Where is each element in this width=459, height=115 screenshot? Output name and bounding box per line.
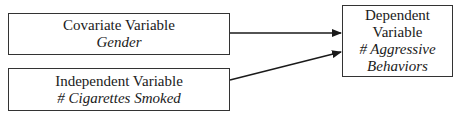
dependent-role-label-line1: Dependent [365,7,430,24]
covariate-variable-name: Gender [97,34,142,51]
dependent-variable-name-line1: # Aggressive [359,41,435,58]
dependent-variable-name-line2: Behaviors [367,58,428,75]
covariate-variable-box: Covariate Variable Gender [8,13,230,55]
independent-variable-box: Independent Variable # Cigarettes Smoked [8,68,230,111]
independent-role-label: Independent Variable [55,73,183,90]
dependent-variable-box: Dependent Variable # Aggressive Behavior… [342,5,453,77]
arrow-independent-to-dependent [230,52,341,80]
covariate-role-label: Covariate Variable [63,17,175,34]
dependent-role-label-line2: Variable [373,24,423,41]
independent-variable-name: # Cigarettes Smoked [57,90,181,107]
